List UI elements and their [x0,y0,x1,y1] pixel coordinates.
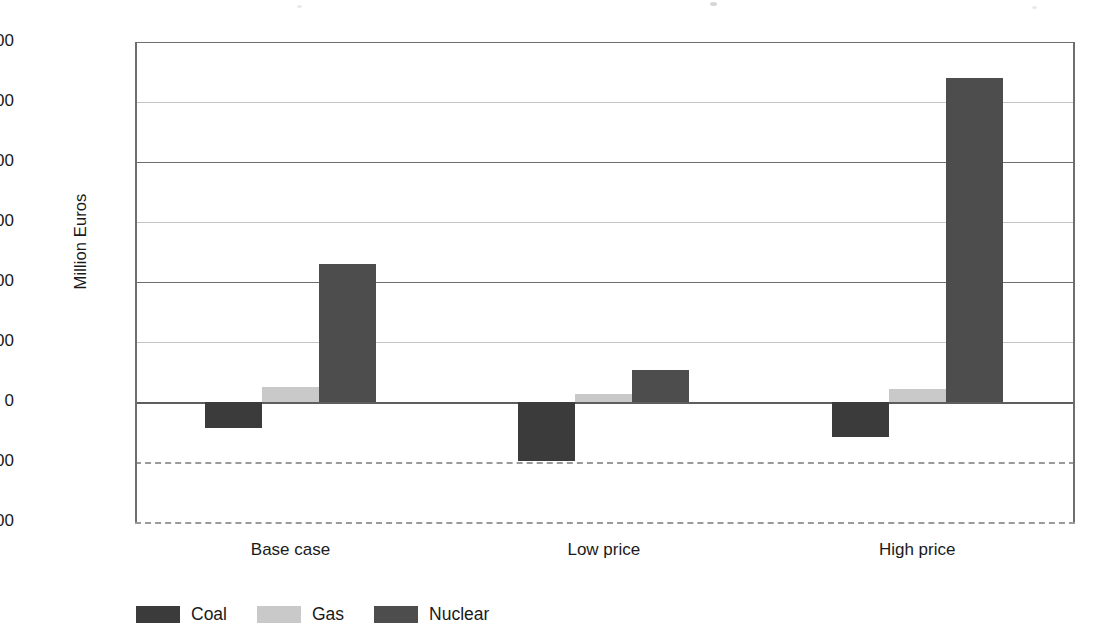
bar-gas-high-price [889,389,946,402]
scan-artifact [1032,6,1037,9]
gridline--1000 [135,522,1075,524]
y-axis-title: Million Euros [71,172,90,312]
legend-label-nuclear: Nuclear [429,604,489,625]
x-category-label-base-case: Base case [181,540,401,560]
bar-coal-high-price [832,402,889,437]
plot-right-edge [1073,42,1075,522]
bar-nuclear-base-case [319,264,376,402]
legend-swatch-gas-icon [257,606,301,623]
bar-nuclear-high-price [946,78,1003,402]
bar-nuclear-low-price [632,370,689,402]
legend-label-coal: Coal [191,604,227,625]
legend-swatch-nuclear-icon [374,606,418,623]
gridline-2000 [135,162,1075,163]
gridline-0 [135,402,1075,404]
y-tick-label-1000: 1 000 [0,271,14,291]
legend-item-gas[interactable]: Gas [257,604,344,625]
x-category-label-low-price: Low price [494,540,714,560]
legend-item-nuclear[interactable]: Nuclear [374,604,489,625]
bar-coal-base-case [205,402,262,428]
y-axis-line [135,42,137,522]
bar-gas-low-price [575,394,632,402]
legend-swatch-coal-icon [136,606,180,623]
plot-area [135,42,1075,522]
y-tick-label-1500: 1 500 [0,211,14,231]
y-tick-label--500: -500 [0,451,14,471]
y-tick-label--1000: -1 000 [0,511,14,531]
y-tick-label-500: 500 [0,331,14,351]
y-tick-label-3000: 3 000 [0,31,14,51]
bar-gas-base-case [262,387,319,402]
scan-artifact [710,2,717,6]
gridline-2500 [135,102,1075,103]
legend-label-gas: Gas [312,604,344,625]
scan-artifact [297,5,302,8]
gridline-1000 [135,282,1075,283]
bar-chart: Million Euros 3 0002 5002 0001 5001 0005… [0,0,1098,639]
y-tick-label-0: 0 [0,391,14,411]
legend-item-coal[interactable]: Coal [136,604,227,625]
chart-legend: CoalGasNuclear [136,604,519,625]
x-category-label-high-price: High price [807,540,1027,560]
gridline-3000 [135,42,1075,43]
gridline--500 [135,462,1075,464]
y-tick-label-2500: 2 500 [0,91,14,111]
bar-coal-low-price [518,402,575,461]
y-tick-label-2000: 2 000 [0,151,14,171]
gridline-1500 [135,222,1075,223]
gridline-500 [135,342,1075,343]
